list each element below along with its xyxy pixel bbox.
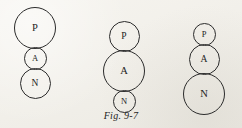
circle-node-p: P (109, 21, 140, 52)
figure-canvas: P A N P A N P A N Fig. 9-7 (0, 0, 242, 128)
circle-label-p: P (121, 32, 126, 42)
circle-node-a: A (24, 47, 47, 70)
circle-node-n: N (183, 73, 225, 115)
circle-node-a: A (189, 44, 220, 75)
circle-label-a: A (120, 66, 128, 77)
circle-label-p: P (202, 30, 207, 39)
circle-stack-right: P A N (183, 23, 225, 115)
circle-label-n: N (121, 97, 127, 106)
circle-stack-left: P A N (14, 7, 56, 99)
circle-node-a: A (103, 50, 145, 92)
circle-label-a: A (32, 54, 38, 63)
circle-label-p: P (32, 23, 38, 34)
circle-node-p: P (14, 7, 56, 49)
figure-caption: Fig. 9-7 (0, 110, 242, 121)
circle-node-p: P (193, 23, 216, 46)
circle-label-n: N (200, 89, 208, 100)
circle-stack-center: P A N (103, 21, 145, 113)
circle-label-n: N (32, 79, 39, 89)
circle-label-a: A (201, 55, 208, 65)
circle-node-n: N (20, 68, 51, 99)
